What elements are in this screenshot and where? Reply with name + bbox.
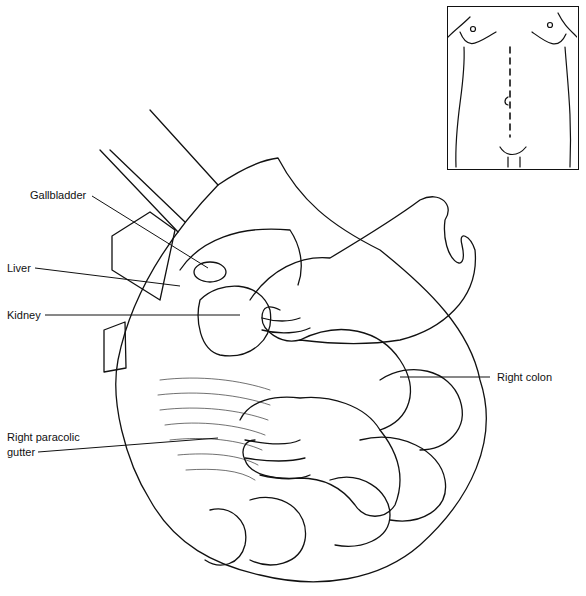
right-torso-edge xyxy=(565,47,571,167)
gallbladder xyxy=(194,262,226,282)
label-right-colon: Right colon xyxy=(497,371,552,384)
kidney xyxy=(198,286,270,356)
paracolic-gutter-hatching xyxy=(158,378,270,480)
label-right-paracolic: Right paracolic xyxy=(7,431,80,444)
incision-outline xyxy=(116,158,486,582)
right-nipple xyxy=(548,23,553,28)
label-kidney: Kidney xyxy=(7,309,41,322)
left-nipple xyxy=(471,27,476,32)
label-liver: Liver xyxy=(7,262,31,275)
lower-hand xyxy=(240,397,400,516)
left-torso-edge xyxy=(456,47,464,167)
upper-hand xyxy=(250,197,475,344)
retractor-handle xyxy=(150,110,218,185)
incision-inset xyxy=(447,6,579,170)
right-arm xyxy=(558,13,577,37)
left-arm xyxy=(448,17,470,37)
pubic-curve xyxy=(500,147,526,155)
retractor-left xyxy=(104,322,126,372)
label-gutter: gutter xyxy=(7,446,35,459)
left-breast xyxy=(460,32,496,44)
liver xyxy=(180,229,301,285)
right-breast xyxy=(532,32,566,44)
umbilicus xyxy=(505,97,508,105)
label-gallbladder: Gallbladder xyxy=(30,189,86,202)
